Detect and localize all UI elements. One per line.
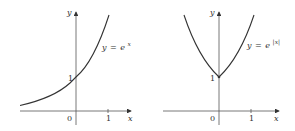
figure: y x 0 1 1 y = e x y x 0 1 1 y = e |x|	[0, 0, 295, 131]
right-vertex-point	[218, 76, 221, 79]
left-y-axis-label: y	[66, 8, 72, 17]
right-graph: y x 0 1 1 y = e |x|	[163, 8, 280, 125]
left-y-tick-label-1: 1	[68, 74, 73, 83]
right-x-axis-label: x	[274, 114, 279, 123]
left-origin-label: 0	[67, 114, 72, 123]
right-y-axis-label: y	[209, 8, 215, 17]
right-x-tick-label-1: 1	[249, 114, 254, 123]
right-y-tick-label-1: 1	[210, 74, 215, 83]
left-x-axis-label: x	[128, 114, 133, 123]
left-function-label: y = e x	[101, 40, 132, 52]
left-curve-exp	[20, 15, 109, 106]
right-function-label: y = e |x|	[246, 38, 280, 50]
right-origin-label: 0	[210, 114, 215, 123]
left-graph: y x 0 1 1 y = e x	[20, 8, 133, 125]
left-x-tick-label-1: 1	[106, 114, 111, 123]
